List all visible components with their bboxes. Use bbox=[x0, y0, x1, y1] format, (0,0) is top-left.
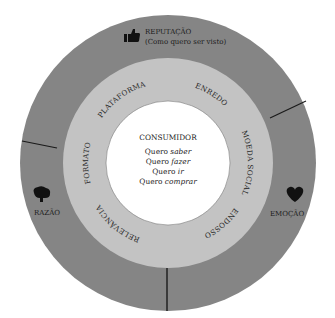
center-line-2: Quero fazer bbox=[146, 157, 191, 166]
consumer-motivation-diagram: CONSUMIDOR Quero saber Quero fazer Quero… bbox=[0, 0, 335, 318]
center-title: CONSUMIDOR bbox=[139, 133, 197, 142]
center-line-4: Quero comprar bbox=[139, 177, 197, 186]
reputacao-sublabel: (Como quero ser visto) bbox=[145, 38, 226, 46]
reputacao-label: REPUTAÇÃO bbox=[145, 27, 192, 36]
razao-label: RAZÃO bbox=[34, 208, 60, 217]
center-line-1: Quero saber bbox=[145, 147, 192, 156]
center-line-3: Quero ir bbox=[152, 167, 184, 176]
emocao-label: EMOÇÃO bbox=[270, 209, 304, 218]
